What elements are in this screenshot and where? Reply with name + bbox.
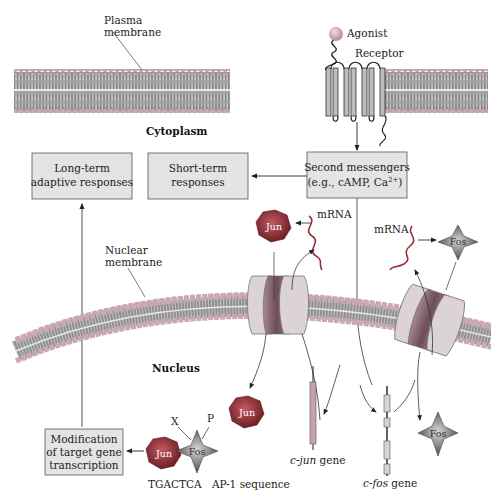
jun-mrna-icon: [309, 216, 322, 270]
long-term-responses-box: Long-term adaptive responses: [31, 153, 133, 199]
ap1-sequence-label: AP-1 sequence: [211, 478, 290, 490]
arrow-to-c-fos-gene: [360, 385, 376, 412]
arrow-jun-import: [250, 334, 266, 388]
svg-text:responses: responses: [171, 176, 224, 188]
fos-protein-nucleus: Fos: [418, 412, 458, 456]
svg-text:Fos: Fos: [450, 236, 467, 247]
jun-protein-cytoplasm: Jun: [256, 210, 291, 242]
c-fos-gene-label: c-fos gene: [363, 477, 417, 489]
svg-text:Jun: Jun: [238, 407, 255, 418]
signaling-diagram: Plasma membrane Agonist Receptor Cytopla…: [0, 0, 491, 499]
fos-transport-line: [446, 262, 456, 290]
svg-text:Short-term: Short-term: [169, 162, 228, 174]
svg-text:Jun: Jun: [265, 221, 282, 232]
svg-text:adaptive responses: adaptive responses: [31, 176, 133, 188]
nuclear-pore-left: [248, 276, 309, 334]
agonist-label: Agonist: [346, 27, 388, 39]
ap1-fos-protein: Fos: [176, 430, 218, 473]
svg-text:transcription: transcription: [49, 459, 119, 471]
svg-text:Second messengers: Second messengers: [304, 161, 410, 173]
agonist-icon: [329, 27, 343, 41]
nucleus-label: Nucleus: [152, 362, 200, 374]
c-jun-gene-label: c-jun gene: [290, 454, 345, 466]
plasma-membrane-label-1: Plasma: [104, 14, 142, 26]
svg-text:Jun: Jun: [155, 448, 172, 459]
nuclear-membrane-label-1: Nuclear: [105, 244, 149, 256]
jun-protein-nucleus: Jun: [229, 396, 264, 428]
c-jun-gene-icon: [310, 366, 316, 450]
svg-text:Long-term: Long-term: [54, 162, 110, 174]
svg-text:of target gene: of target gene: [46, 446, 121, 458]
jun-mrna-label: mRNA: [317, 208, 352, 220]
second-messengers-box: Second messengers (e.g., cAMP, Ca2+): [304, 152, 410, 198]
arrow-to-jun-gene: [324, 365, 340, 414]
x-modification-line: [178, 427, 191, 440]
p-mark-label: P: [207, 412, 214, 424]
ap1-jun-protein: Jun: [146, 437, 181, 469]
nuclear-membrane-label-2: membrane: [105, 256, 162, 268]
receptor-label: Receptor: [355, 47, 404, 59]
fos-mrna-label: mRNA: [374, 223, 409, 235]
phosphorylation-line: [202, 427, 209, 439]
short-term-responses-box: Short-term responses: [148, 153, 248, 199]
modification-box: Modification of target gene transcriptio…: [45, 429, 123, 475]
messenger-signal-line: [357, 198, 372, 385]
x-mark-label: X: [171, 415, 179, 427]
tgactca-label: TGACTCA: [148, 478, 202, 490]
fos-transcript-line: [394, 380, 415, 412]
nuclear-membrane-pointer: [128, 268, 145, 297]
arrow-fos-import: [418, 352, 420, 420]
svg-text:Modification: Modification: [51, 433, 118, 445]
svg-text:Fos: Fos: [430, 428, 447, 439]
plasma-membrane-label-2: membrane: [104, 26, 161, 38]
c-fos-gene-icon: [384, 386, 390, 476]
cytoplasm-label: Cytoplasm: [146, 125, 207, 137]
svg-text:Fos: Fos: [189, 446, 206, 457]
plasma-membrane: [14, 69, 488, 113]
fos-protein-cytoplasm: Fos: [438, 225, 478, 260]
